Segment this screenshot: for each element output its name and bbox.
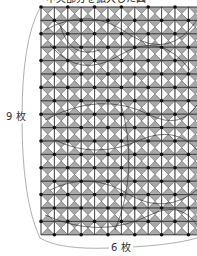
rows-bracket: [22, 8, 40, 238]
pinwheel-dot-icon: [106, 206, 110, 210]
pinwheel-dot-icon: [160, 126, 164, 130]
pinwheel-dot-icon: [79, 126, 83, 130]
pinwheel-dot-icon: [173, 32, 177, 36]
pinwheel-dot-icon: [133, 179, 137, 183]
pinwheel-dot-icon: [106, 126, 110, 130]
pinwheel-dot-icon: [133, 72, 137, 76]
pinwheel-dot-icon: [53, 72, 57, 76]
pinwheel-dot-icon: [53, 99, 57, 103]
pinwheel-dot-icon: [93, 139, 97, 143]
pinwheel-dot-icon: [79, 19, 83, 23]
pinwheel-dot-icon: [39, 139, 43, 143]
pinwheel-dot-icon: [160, 45, 164, 49]
pinwheel-dot-icon: [120, 193, 124, 197]
pinwheel-dot-icon: [146, 112, 150, 116]
pinwheel-dot-icon: [106, 99, 110, 103]
pinwheel-dot-icon: [93, 5, 97, 9]
pinwheel-dot-icon: [79, 72, 83, 76]
pinwheel-dot-icon: [146, 86, 150, 90]
diagram-title: 中央部分を拡大した図: [44, 0, 148, 5]
pinwheel-dot-icon: [160, 153, 164, 157]
pinwheel-dot-icon: [146, 166, 150, 170]
pinwheel-dot-icon: [79, 206, 83, 210]
pinwheel-dot-icon: [120, 139, 124, 143]
pinwheel-dot-icon: [120, 59, 124, 63]
pinwheel-dot-icon: [79, 45, 83, 49]
pinwheel-dot-icon: [146, 59, 150, 63]
pinwheel-dot-icon: [133, 126, 137, 130]
pinwheel-dot-icon: [106, 72, 110, 76]
pinwheel-dot-icon: [39, 220, 43, 224]
pinwheel-dot-icon: [39, 166, 43, 170]
pinwheel-dot-icon: [146, 5, 150, 9]
pinwheel-dot-icon: [187, 153, 191, 157]
pinwheel-dot-icon: [173, 139, 177, 143]
pinwheel-dot-icon: [133, 45, 137, 49]
pinwheel-dot-icon: [146, 220, 150, 224]
pinwheel-dot-icon: [133, 153, 137, 157]
pinwheel-dot-icon: [173, 193, 177, 197]
pinwheel-dot-icon: [120, 5, 124, 9]
pinwheel-dot-icon: [93, 193, 97, 197]
pinwheel-dot-icon: [160, 99, 164, 103]
pinwheel-dot-icon: [160, 233, 164, 237]
pinwheel-dot-icon: [93, 86, 97, 90]
pinwheel-dot-icon: [120, 112, 124, 116]
pinwheel-dot-icon: [146, 193, 150, 197]
pinwheel-dot-icon: [173, 86, 177, 90]
quilt-diagram: 中央部分を拡大した図 9 枚 6 枚: [0, 0, 197, 256]
pinwheel-dot-icon: [187, 99, 191, 103]
pinwheel-dot-icon: [66, 59, 70, 63]
pinwheel-dot-icon: [133, 206, 137, 210]
pinwheel-dot-icon: [106, 233, 110, 237]
pinwheel-dot-icon: [79, 233, 83, 237]
pinwheel-dot-icon: [106, 179, 110, 183]
pinwheel-dot-icon: [187, 233, 191, 237]
pinwheel-dot-icon: [93, 59, 97, 63]
pinwheel-dot-icon: [173, 220, 177, 224]
pinwheel-dot-icon: [66, 5, 70, 9]
pinwheel-dot-icon: [146, 139, 150, 143]
pinwheel-dot-icon: [173, 59, 177, 63]
pinwheel-dot-icon: [53, 153, 57, 157]
pinwheel-dot-icon: [93, 220, 97, 224]
pinwheel-dot-icon: [120, 166, 124, 170]
pinwheel-dot-icon: [133, 99, 137, 103]
pinwheel-dot-icon: [160, 206, 164, 210]
pinwheel-dot-icon: [146, 32, 150, 36]
column-count-label: 6 枚: [109, 242, 133, 254]
pinwheel-dot-icon: [187, 45, 191, 49]
pinwheel-dot-icon: [79, 99, 83, 103]
pinwheel-dot-icon: [53, 233, 57, 237]
pinwheel-dot-icon: [53, 19, 57, 23]
pinwheel-dot-icon: [93, 166, 97, 170]
pinwheel-dot-icon: [187, 179, 191, 183]
pinwheel-dot-icon: [53, 126, 57, 130]
pinwheel-dot-icon: [173, 112, 177, 116]
pinwheel-dot-icon: [39, 193, 43, 197]
pinwheel-dot-icon: [53, 45, 57, 49]
pinwheel-dot-icon: [39, 112, 43, 116]
pinwheel-dot-icon: [173, 5, 177, 9]
pinwheel-dot-icon: [39, 59, 43, 63]
pinwheel-dot-icon: [79, 153, 83, 157]
pinwheel-dot-icon: [66, 32, 70, 36]
pinwheel-dot-icon: [133, 19, 137, 23]
pinwheel-dot-icon: [93, 32, 97, 36]
pinwheel-dot-icon: [120, 86, 124, 90]
pinwheel-dot-icon: [66, 86, 70, 90]
pinwheel-dot-icon: [160, 72, 164, 76]
pinwheel-dot-icon: [173, 166, 177, 170]
pinwheel-dot-icon: [93, 112, 97, 116]
pinwheel-dot-icon: [160, 19, 164, 23]
pinwheel-dot-icon: [79, 179, 83, 183]
quilt-grid: [0, 0, 197, 256]
pinwheel-dot-icon: [39, 32, 43, 36]
pinwheel-dot-icon: [66, 193, 70, 197]
pinwheel-dot-icon: [133, 233, 137, 237]
pinwheel-dot-icon: [53, 179, 57, 183]
pinwheel-dot-icon: [53, 206, 57, 210]
pinwheel-dot-icon: [106, 19, 110, 23]
pinwheel-dot-icon: [39, 86, 43, 90]
pinwheel-dot-icon: [106, 153, 110, 157]
